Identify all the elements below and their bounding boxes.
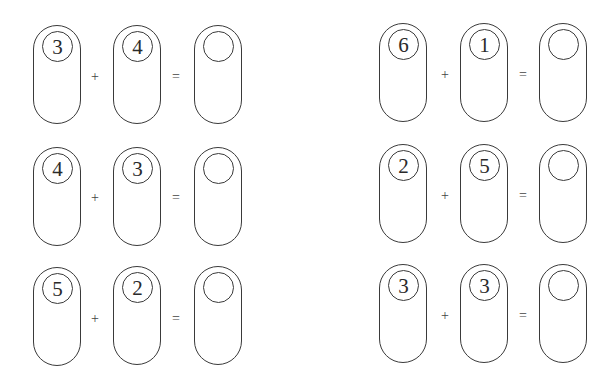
answer-capsule[interactable] [539,23,587,122]
addend-b-value: 2 [132,278,143,299]
answer-capsule[interactable] [194,25,242,124]
addend-a-capsule: 3 [33,25,81,124]
addend-b-capsule: 4 [113,25,161,124]
addend-a-capsule: 6 [379,23,427,122]
addend-a-capsule: 3 [379,264,427,363]
equals-sign: = [517,68,529,82]
answer-capsule[interactable] [539,264,587,363]
addend-a-bubble: 3 [42,31,73,62]
equals-sign: = [517,309,529,323]
plus-sign: + [89,70,101,84]
addend-a-value: 2 [398,156,409,177]
addend-b-value: 4 [132,37,143,58]
addend-b-capsule: 3 [460,264,508,363]
addend-b-capsule: 1 [460,23,508,122]
addend-a-value: 3 [398,276,409,297]
addend-b-capsule: 3 [113,147,161,246]
answer-capsule[interactable] [194,266,242,365]
equals-sign: = [170,191,182,205]
addend-a-bubble: 3 [388,270,419,301]
equals-sign: = [170,312,182,326]
addend-a-bubble: 2 [388,150,419,181]
addend-a-capsule: 4 [33,147,81,246]
addend-b-value: 3 [132,159,143,180]
addend-a-value: 4 [52,159,63,180]
addend-a-bubble: 5 [42,273,73,304]
addend-b-capsule: 5 [460,144,508,243]
answer-bubble[interactable] [548,29,579,60]
plus-sign: + [89,191,101,205]
addend-b-bubble: 1 [469,29,500,60]
answer-bubble[interactable] [203,272,234,303]
plus-sign: + [439,68,451,82]
addend-b-bubble: 4 [122,31,153,62]
addend-a-bubble: 4 [42,153,73,184]
addend-b-value: 3 [479,276,490,297]
addend-a-value: 6 [398,35,409,56]
answer-capsule[interactable] [539,144,587,243]
answer-bubble[interactable] [548,150,579,181]
addend-a-capsule: 2 [379,144,427,243]
addend-b-bubble: 3 [469,270,500,301]
addend-b-bubble: 2 [122,272,153,303]
addend-b-value: 5 [479,156,490,177]
addend-a-value: 5 [52,279,63,300]
plus-sign: + [89,312,101,326]
addend-a-value: 3 [52,37,63,58]
equals-sign: = [517,189,529,203]
addend-b-value: 1 [479,35,490,56]
addend-b-bubble: 3 [122,153,153,184]
answer-bubble[interactable] [203,153,234,184]
plus-sign: + [439,189,451,203]
addend-b-bubble: 5 [469,150,500,181]
answer-bubble[interactable] [548,270,579,301]
addend-a-bubble: 6 [388,29,419,60]
answer-capsule[interactable] [194,147,242,246]
addend-a-capsule: 5 [33,267,81,366]
equals-sign: = [170,70,182,84]
plus-sign: + [439,309,451,323]
addend-b-capsule: 2 [113,266,161,365]
answer-bubble[interactable] [203,31,234,62]
